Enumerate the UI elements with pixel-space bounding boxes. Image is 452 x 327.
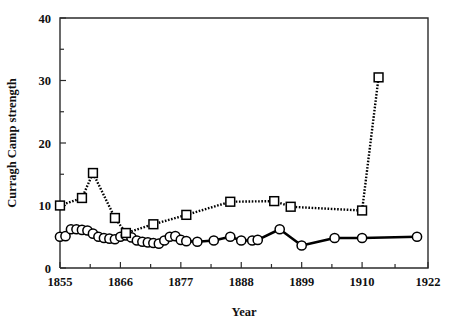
x-axis-ticks	[60, 262, 428, 268]
circle-data-marker	[226, 232, 235, 241]
circle-data-marker	[182, 237, 191, 246]
y-tick-label: 10	[39, 199, 52, 213]
series-square	[56, 73, 383, 237]
x-tick-label: 1877	[168, 275, 193, 289]
y-tick-label: 20	[39, 137, 52, 151]
y-tick-label: 40	[39, 12, 52, 26]
square-data-marker	[374, 73, 383, 82]
square-data-marker	[78, 194, 87, 203]
data-series-layer	[55, 73, 421, 250]
circle-data-marker	[357, 233, 366, 242]
x-tick-label: 1866	[108, 275, 133, 289]
x-tick-label: 1922	[416, 275, 441, 289]
y-axis-title: Curragh Camp strength	[5, 78, 19, 208]
y-axis-tick-labels: 010203040	[39, 12, 52, 276]
circle-data-marker	[330, 233, 339, 242]
circle-data-marker	[209, 236, 218, 245]
x-axis-tick-labels: 1855186618771888189919101922	[48, 275, 441, 289]
y-tick-label: 0	[45, 262, 51, 276]
square-data-marker	[89, 169, 98, 178]
square-data-marker	[358, 206, 367, 215]
axes-frame	[60, 18, 428, 268]
chart-figure: 010203040 1855186618771888189919101922 Y…	[0, 0, 452, 327]
x-tick-label: 1910	[350, 275, 375, 289]
x-tick-label: 1899	[289, 275, 314, 289]
plot-frame	[60, 18, 428, 268]
x-tick-label: 1855	[48, 275, 73, 289]
square-data-marker	[122, 229, 131, 238]
square-data-marker	[182, 210, 191, 219]
circle-data-marker	[253, 235, 262, 244]
circle-data-marker	[237, 236, 246, 245]
y-tick-label: 30	[39, 74, 52, 88]
square-data-marker	[226, 197, 235, 206]
series-circle	[55, 225, 421, 250]
x-tick-label: 1888	[229, 275, 254, 289]
curragh-camp-strength-chart: 010203040 1855186618771888189919101922 Y…	[0, 0, 452, 327]
x-axis-title: Year	[232, 305, 257, 319]
square-data-marker	[270, 197, 279, 206]
circle-data-marker	[275, 225, 284, 234]
circle-data-marker	[193, 237, 202, 246]
square-data-marker	[286, 202, 295, 211]
square-data-marker	[56, 201, 65, 210]
y-axis-ticks	[60, 18, 66, 268]
circle-data-marker	[412, 232, 421, 241]
circle-data-marker	[297, 241, 306, 250]
square-data-marker	[149, 220, 158, 229]
square-series-line	[60, 77, 379, 233]
square-data-marker	[111, 214, 120, 223]
